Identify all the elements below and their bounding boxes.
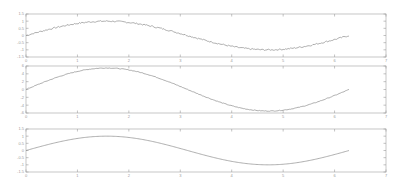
y-tick-label: 2 (22, 79, 25, 84)
x-tick-label: 7 (385, 58, 388, 63)
y-tick-label: 1.5 (18, 11, 24, 16)
x-tick-label: 0 (25, 173, 28, 178)
x-tick-label: 7 (385, 114, 388, 119)
y-tick-label: 0.5 (18, 141, 24, 146)
y-tick-label: 0 (22, 87, 25, 92)
series-line (26, 136, 349, 165)
subplots-canvas: 012345671.510.50-0.5-1-1.5 012345676420-… (0, 0, 405, 183)
x-tick-label: 6 (333, 173, 336, 178)
y-tick-label: 0.5 (18, 26, 24, 31)
x-tick-label: 3 (179, 114, 182, 119)
x-tick-label: 5 (282, 58, 285, 63)
y-tick-label: -1.5 (17, 54, 25, 59)
x-tick-label: 4 (231, 173, 234, 178)
x-tick-label: 3 (179, 173, 182, 178)
series-line (26, 21, 349, 51)
x-tick-label: 6 (333, 58, 336, 63)
subplot-1: 012345671.510.50-0.5-1-1.5 (17, 11, 388, 63)
x-tick-label: 0 (25, 114, 28, 119)
subplot-3: 012345671.510.50-0.5-1-1.5 (17, 126, 388, 178)
x-tick-label: 0 (25, 58, 28, 63)
x-tick-label: 2 (128, 114, 131, 119)
x-tick-label: 2 (128, 58, 131, 63)
series-line (26, 68, 349, 111)
y-tick-label: -2 (20, 95, 24, 100)
x-tick-label: 1 (76, 114, 79, 119)
figure: 012345671.510.50-0.5-1-1.5 012345676420-… (0, 0, 405, 183)
x-tick-label: 7 (385, 173, 388, 178)
y-tick-label: 1 (22, 19, 25, 24)
y-tick-label: 4 (22, 71, 25, 76)
y-tick-label: 1.5 (18, 126, 24, 131)
x-tick-label: 3 (179, 58, 182, 63)
axes-box (26, 129, 386, 172)
subplot-2: 012345676420-2-4-6 (20, 63, 387, 119)
y-tick-label: -0.5 (17, 155, 25, 160)
y-tick-label: -4 (20, 103, 24, 108)
axes-box (26, 14, 386, 57)
x-tick-label: 1 (76, 58, 79, 63)
x-tick-label: 1 (76, 173, 79, 178)
x-tick-label: 2 (128, 173, 131, 178)
y-tick-label: -0.5 (17, 40, 25, 45)
y-tick-label: 1 (22, 134, 25, 139)
y-tick-label: 0 (22, 148, 25, 153)
y-tick-label: 0 (22, 33, 25, 38)
x-tick-label: 6 (333, 114, 336, 119)
x-tick-label: 5 (282, 173, 285, 178)
y-tick-label: -1 (20, 47, 24, 52)
x-tick-label: 4 (231, 114, 234, 119)
y-tick-label: -1 (20, 162, 24, 167)
x-tick-label: 5 (282, 114, 285, 119)
x-tick-label: 4 (231, 58, 234, 63)
y-tick-label: 6 (22, 63, 25, 68)
axes-box (26, 66, 386, 113)
y-tick-label: -1.5 (17, 169, 25, 174)
